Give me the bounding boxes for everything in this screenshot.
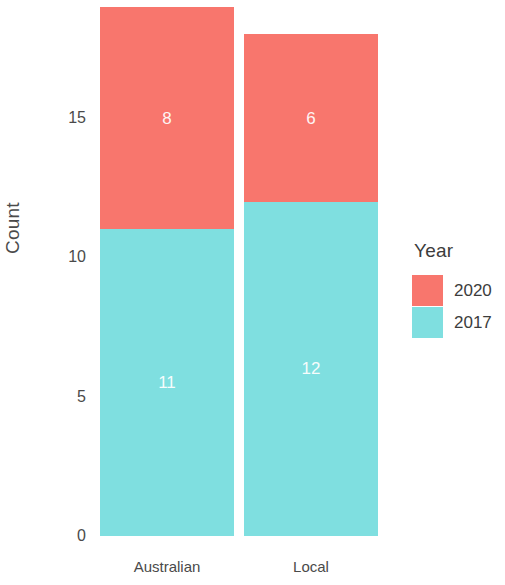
bar-value-label: 12 — [302, 360, 321, 377]
y-tick-label-15: 15 — [46, 110, 86, 126]
bar-value-label: 6 — [306, 110, 315, 127]
legend-item-2017[interactable]: 2017 — [412, 306, 502, 338]
legend-swatch-2020 — [412, 275, 443, 306]
x-tick-label-local: Local — [239, 558, 383, 575]
stacked-bar-chart: Count 15 10 5 0 8 11 6 12 Australian L — [0, 0, 505, 585]
y-tick-label-0: 0 — [46, 528, 86, 544]
y-axis-title: Count — [2, 134, 26, 254]
bar-value-label: 11 — [158, 374, 176, 391]
bar-segment-local-2020[interactable]: 6 — [244, 34, 378, 201]
bar-segment-australian-2017[interactable]: 11 — [100, 229, 234, 536]
legend-item-2020[interactable]: 2020 — [412, 274, 502, 306]
bar-segment-local-2017[interactable]: 12 — [244, 202, 378, 536]
x-axis-tick-labels: Australian Local — [95, 558, 385, 582]
y-tick-label-5: 5 — [46, 389, 86, 405]
plot-panel: 8 11 6 12 — [95, 0, 385, 545]
x-tick-label-australian: Australian — [95, 558, 239, 575]
bar-segment-australian-2020[interactable]: 8 — [100, 7, 234, 230]
legend-label-2020: 2020 — [454, 282, 492, 299]
legend-label-2017: 2017 — [454, 314, 492, 331]
y-axis-tick-labels: 15 10 5 0 — [42, 0, 86, 585]
y-tick-label-10: 10 — [46, 249, 86, 265]
bar-value-label: 8 — [162, 110, 171, 127]
legend: Year 2020 2017 — [412, 240, 502, 338]
legend-title: Year — [414, 240, 502, 262]
legend-swatch-2017 — [412, 307, 443, 338]
